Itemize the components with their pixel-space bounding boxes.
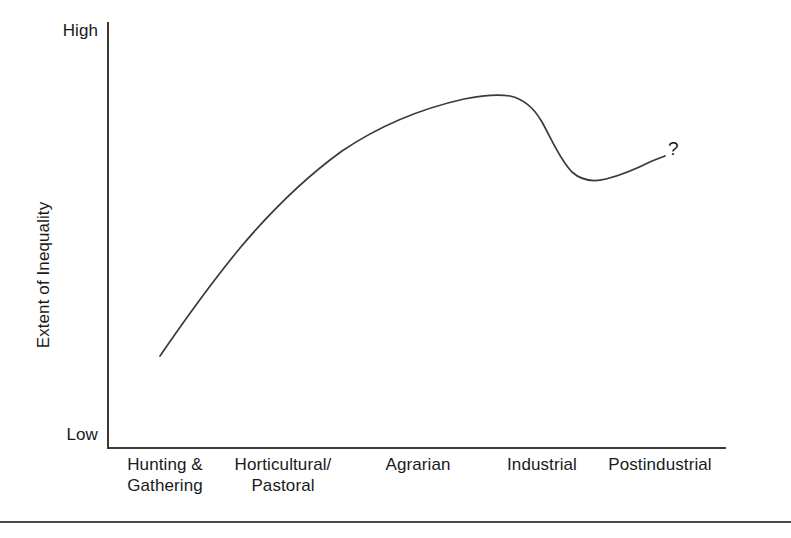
inequality-curve-path xyxy=(160,95,665,356)
x-tick-agrarian: Agrarian xyxy=(368,454,468,475)
x-tick-label-line1: Horticultural/ xyxy=(235,455,332,474)
x-tick-label-line2: Pastoral xyxy=(222,475,344,496)
x-axis-line xyxy=(107,447,726,449)
bottom-separator-rule xyxy=(0,521,791,523)
x-tick-postindustrial: Postindustrial xyxy=(594,454,726,475)
x-tick-industrial: Industrial xyxy=(494,454,590,475)
y-axis-low-label: Low xyxy=(30,424,98,445)
question-mark-annotation: ? xyxy=(668,139,679,159)
x-tick-label-line2: Gathering xyxy=(110,475,220,496)
y-axis-title: Extent of Inequality xyxy=(34,145,54,405)
x-tick-label-line1: Agrarian xyxy=(385,455,450,474)
x-tick-hunting-gathering: Hunting & Gathering xyxy=(110,454,220,496)
y-axis-line xyxy=(107,22,109,449)
x-tick-label-line1: Hunting & xyxy=(127,455,203,474)
x-tick-label-line1: Postindustrial xyxy=(608,455,711,474)
inequality-curve-figure: High Low Extent of Inequality ? Hunting … xyxy=(0,0,791,538)
y-axis-high-label: High xyxy=(30,20,98,41)
x-tick-horticultural-pastoral: Horticultural/ Pastoral xyxy=(222,454,344,496)
x-tick-label-line1: Industrial xyxy=(507,455,577,474)
